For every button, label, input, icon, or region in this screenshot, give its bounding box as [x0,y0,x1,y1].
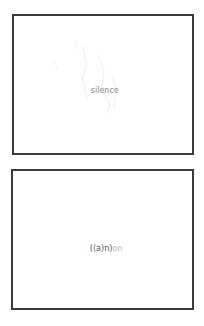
card-anon: ((a)n)on [11,169,194,310]
card-silence: silence [12,14,194,155]
anon-label: ((a)n)on [90,243,122,252]
anon-label-tail: on [112,243,122,252]
anon-label-main: ((a)n) [90,243,112,252]
silence-label: silence [91,85,119,94]
